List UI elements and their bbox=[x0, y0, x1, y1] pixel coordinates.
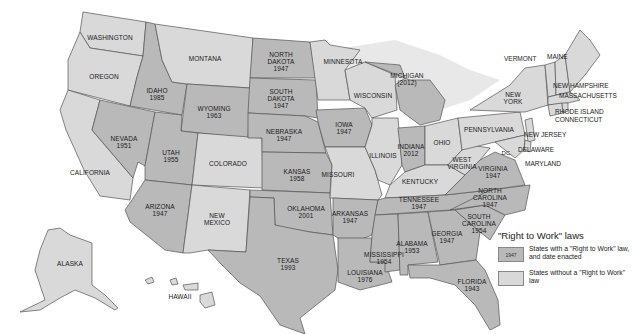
label-massachusetts: MASSACHUSETTS bbox=[559, 92, 617, 99]
label-kansas: KANSAS1958 bbox=[284, 168, 311, 182]
label-minnesota: MINNESOTA bbox=[323, 58, 362, 65]
label-maine: MAINE bbox=[547, 53, 568, 60]
label-south-carolina: SOUTH CAROLINA1954 bbox=[459, 213, 499, 234]
label-oklahoma: OKLAHOMA2001 bbox=[287, 205, 325, 219]
legend-swatch-without-law bbox=[498, 271, 524, 286]
label-indiana: INDIANA2012 bbox=[397, 143, 424, 157]
label-arkansas: ARKANSAS1947 bbox=[332, 210, 368, 224]
legend-text-without-law: States without a "Right to Work" law bbox=[529, 269, 633, 285]
label-vermont: VERMONT bbox=[504, 55, 537, 62]
label-utah: UTAH1955 bbox=[162, 149, 180, 163]
label-new-jersey: NEW JERSEY bbox=[524, 131, 566, 138]
map-legend: "Right to Work" laws 1947 States with a … bbox=[498, 230, 633, 293]
label-louisiana: LOUISIANA1976 bbox=[347, 269, 383, 283]
label-arizona: ARIZONA1947 bbox=[145, 203, 175, 217]
label-wyoming: WYOMING1963 bbox=[197, 105, 230, 119]
label-south-dakota: SOUTH DAKOTA1947 bbox=[261, 88, 301, 109]
state-alaska bbox=[20, 228, 118, 312]
label-new-mexico: NEW MEXICO bbox=[197, 212, 237, 226]
label-new-york: NEW YORK bbox=[500, 91, 526, 105]
label-california: CALIFORNIA bbox=[70, 169, 110, 176]
label-wisconsin: WISCONSIN bbox=[354, 92, 392, 99]
label-florida: FLORIDA1943 bbox=[458, 278, 487, 292]
label-georgia: GEORGIA1947 bbox=[431, 230, 462, 244]
label-iowa: IOWA1947 bbox=[335, 121, 353, 135]
label-maryland: MARYLAND bbox=[525, 160, 561, 167]
label-illinois: ILLINOIS bbox=[369, 152, 397, 159]
label-ohio: OHIO bbox=[433, 139, 450, 146]
state-new-jersey bbox=[525, 118, 535, 142]
label-washington: WASHINGTON bbox=[87, 34, 132, 41]
label-hawaii: HAWAII bbox=[168, 293, 191, 300]
legend-title: "Right to Work" laws bbox=[498, 230, 633, 241]
label-rhode-island: RHODE ISLAND bbox=[555, 108, 604, 115]
label-virginia: VIRGINIA1947 bbox=[478, 165, 507, 179]
legend-text-with-law: States with a "Right to Work" law, and d… bbox=[529, 245, 633, 261]
label-idaho: IDAHO1985 bbox=[146, 87, 167, 101]
label-pennsylvania: PENNSYLVANIA bbox=[464, 126, 514, 133]
legend-row-with-law: 1947 States with a "Right to Work" law, … bbox=[498, 245, 633, 262]
label-nebraska: NEBRASKA1947 bbox=[266, 128, 302, 142]
label-new-hampshire: NEW HAMPSHIRE bbox=[553, 82, 609, 89]
label-alabama: ALABAMA1953 bbox=[396, 240, 427, 254]
label-montana: MONTANA bbox=[189, 55, 222, 62]
label-dc: DC bbox=[502, 150, 511, 157]
label-north-dakota: NORTH DAKOTA1947 bbox=[261, 51, 301, 72]
label-missouri: MISSOURI bbox=[322, 171, 355, 178]
legend-row-without-law: States without a "Right to Work" law bbox=[498, 269, 633, 286]
label-texas: TEXAS1993 bbox=[277, 257, 299, 271]
legend-swatch-with-law: 1947 bbox=[498, 247, 524, 262]
label-alaska: ALASKA bbox=[57, 260, 83, 267]
label-west-virginia: WEST VIRGINIA bbox=[445, 156, 479, 170]
state-florida bbox=[408, 260, 500, 330]
label-tennessee: TENNESSEE1947 bbox=[399, 196, 439, 210]
label-kentucky: KENTUCKY bbox=[402, 178, 438, 185]
label-oregon: OREGON bbox=[89, 73, 119, 80]
label-michigan: MICHIGAN(2012) bbox=[390, 72, 423, 86]
label-nevada: NEVADA1951 bbox=[111, 135, 138, 149]
label-delaware: DELAWARE bbox=[518, 146, 554, 153]
label-connecticut: CONNECTICUT bbox=[555, 116, 602, 123]
label-colorado: COLORADO bbox=[209, 160, 247, 167]
label-north-carolina: NORTH CAROLINA1947 bbox=[470, 187, 510, 208]
